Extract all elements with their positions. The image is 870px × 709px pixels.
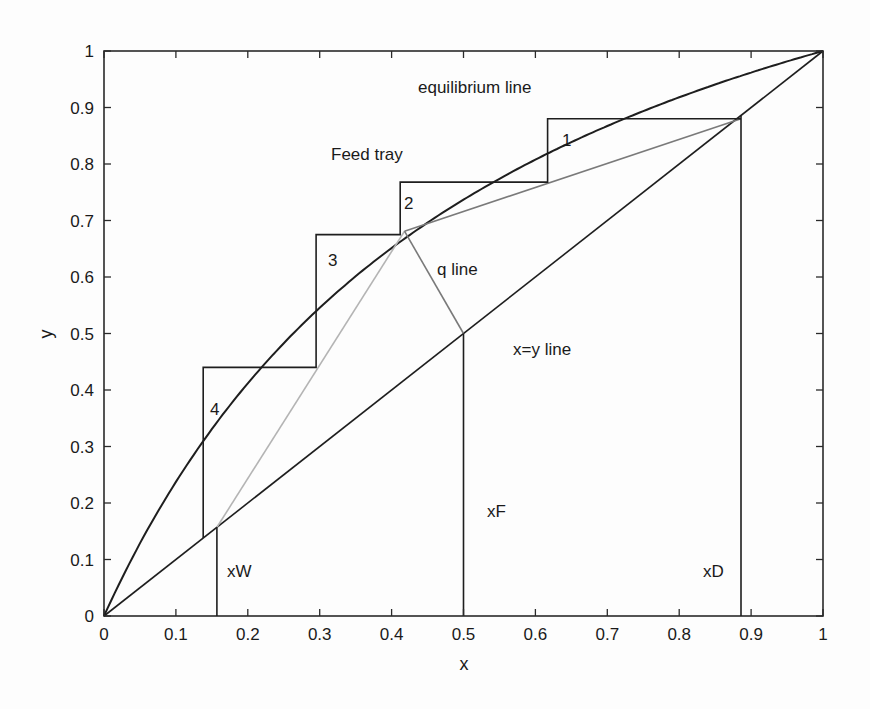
q-line-label: q line: [437, 260, 478, 279]
y-tick-label: 0.7: [70, 212, 94, 231]
stage-4-label: 4: [210, 400, 219, 419]
stripping-operating-line-series: [217, 231, 405, 527]
q-line-series: [405, 231, 464, 333]
plot-area: [104, 51, 823, 616]
y-tick-label: 0.2: [70, 494, 94, 513]
y-tick-label: 0.3: [70, 438, 94, 457]
x-tick-label: 0: [99, 625, 108, 644]
y-axis-title: y: [36, 330, 56, 339]
stage-1-label: 1: [562, 131, 571, 150]
equilibrium-line-label: equilibrium line: [418, 78, 531, 97]
y-tick-label: 0: [85, 607, 94, 626]
x-tick-label: 0.9: [739, 625, 763, 644]
x-tick-label: 0.4: [380, 625, 404, 644]
y-tick-label: 0.5: [70, 325, 94, 344]
x-tick-label: 0.2: [236, 625, 260, 644]
y-tick-label: 0.4: [70, 381, 94, 400]
x-tick-label: 0.3: [308, 625, 332, 644]
stage-3-label: 3: [328, 251, 337, 270]
y-tick-label: 0.1: [70, 551, 94, 570]
y-tick-label: 0.6: [70, 268, 94, 287]
xF-label: xF: [487, 502, 506, 521]
x-tick-label: 0.6: [524, 625, 548, 644]
xD-label: xD: [703, 562, 724, 581]
x-tick-label: 1: [818, 625, 827, 644]
y-tick-label: 1: [85, 42, 94, 61]
y-tick-label: 0.9: [70, 99, 94, 118]
rectifying-operating-line-series: [405, 119, 742, 231]
x-axis-title: x: [460, 654, 469, 674]
x-tick-label: 0.8: [667, 625, 691, 644]
xW-label: xW: [227, 562, 252, 581]
y-tick-label: 0.8: [70, 155, 94, 174]
x-tick-label: 0.1: [164, 625, 188, 644]
x-tick-label: 0.5: [452, 625, 476, 644]
xy-line-label: x=y line: [513, 340, 571, 359]
feed-tray-label: Feed tray: [331, 145, 403, 164]
x-tick-label: 0.7: [595, 625, 619, 644]
mccabe-thiele-chart: 00.10.20.30.40.50.60.70.80.9100.10.20.30…: [0, 0, 870, 709]
stage-2-label: 2: [404, 194, 413, 213]
